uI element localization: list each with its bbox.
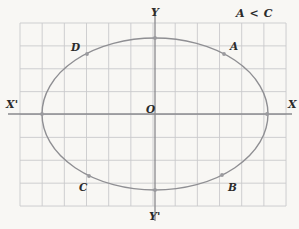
point-label-a: A bbox=[230, 41, 238, 52]
axis-label-y-positive: Y bbox=[151, 7, 159, 18]
point-label-c: C bbox=[79, 182, 88, 193]
inequality-annotation: A < C bbox=[236, 8, 273, 19]
ellipse-diagram: Y Y' X X' O A < C ABCD bbox=[0, 0, 299, 229]
point-label-b: B bbox=[228, 182, 237, 193]
axis-label-x-positive: X bbox=[288, 99, 297, 110]
axis-label-y-negative: Y' bbox=[149, 211, 161, 222]
point-label-d: D bbox=[71, 42, 80, 53]
axis-label-x-negative: X' bbox=[6, 99, 18, 110]
origin-label: O bbox=[146, 104, 155, 115]
